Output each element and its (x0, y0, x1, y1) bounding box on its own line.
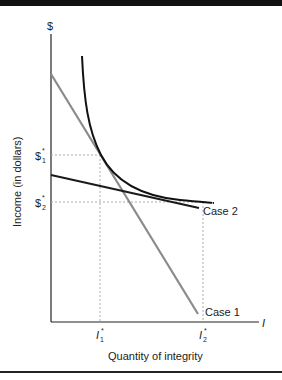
svg-text:*: * (42, 147, 45, 154)
svg-text:*: * (204, 327, 207, 334)
y-tick-s1: $ 1 * (35, 147, 46, 164)
svg-text:2: 2 (203, 336, 207, 343)
x-axis-title: Quantity of integrity (108, 350, 203, 362)
svg-text:1: 1 (42, 157, 46, 164)
case1-line (51, 74, 198, 314)
case1-label: Case 1 (205, 306, 240, 318)
svg-text:I: I (199, 329, 202, 341)
svg-text:$: $ (35, 197, 41, 209)
x-tick-i2: I 2 * (199, 327, 207, 343)
svg-text:*: * (101, 327, 104, 334)
svg-text:$: $ (35, 150, 41, 162)
svg-text:I: I (96, 329, 99, 341)
y-axis-symbol: $ (47, 20, 53, 32)
x-axis-symbol: I (262, 317, 265, 329)
y-tick-s2: $ 2 * (35, 194, 46, 211)
bottom-border (0, 371, 282, 373)
svg-text:1: 1 (100, 336, 104, 343)
case2-line (51, 175, 199, 208)
case2-label: Case 2 (203, 205, 238, 217)
indifference-curve (82, 56, 213, 203)
x-tick-i1: I 1 * (96, 327, 104, 343)
svg-text:2: 2 (42, 204, 46, 211)
svg-text:*: * (42, 194, 45, 201)
y-axis-title: Income (in dollars) (11, 137, 23, 227)
chart: $ I $ 1 * $ 2 * I 1 * I 2 * Case 2 Case … (0, 0, 282, 380)
